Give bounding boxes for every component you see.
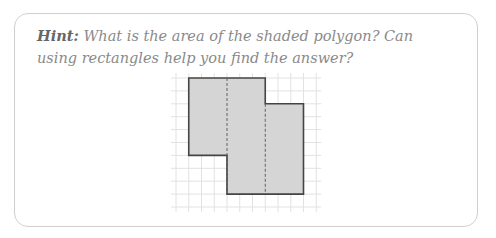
grid-figure [0,0,496,238]
shaded-polygon [189,78,304,194]
